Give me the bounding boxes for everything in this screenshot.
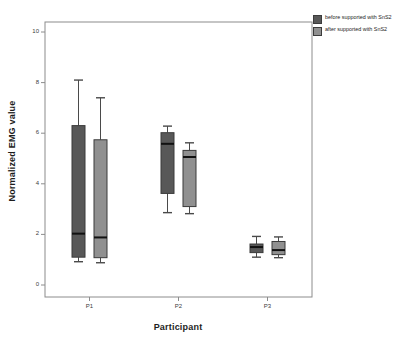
boxplot-figure: Normalized EMG value Participant before … xyxy=(0,0,412,342)
legend-label-after: after supported with SnS2 xyxy=(325,26,387,32)
box-p1-before[interactable] xyxy=(72,80,85,262)
y-tick-label: 10 xyxy=(19,28,39,34)
y-tick-label: 8 xyxy=(19,79,39,85)
x-axis-title-wrapper: Participant xyxy=(44,316,312,334)
y-tick-label: 0 xyxy=(19,281,39,287)
legend-swatch-before xyxy=(313,15,322,24)
chart-legend: before supported with SnS2 after support… xyxy=(313,14,409,38)
x-tick-label-p3: P3 xyxy=(253,303,283,309)
boxplot-canvas xyxy=(0,0,412,342)
y-axis-title: Normalized EMG value xyxy=(7,100,17,201)
legend-label-before: before supported with SnS2 xyxy=(325,14,392,20)
x-axis-title: Participant xyxy=(154,322,203,332)
legend-swatch-after xyxy=(313,27,322,36)
y-axis-title-wrapper: Normalized EMG value xyxy=(2,0,22,342)
legend-item-before[interactable]: before supported with SnS2 xyxy=(313,14,409,24)
y-tick-label: 6 xyxy=(19,129,39,135)
box-p1-after[interactable] xyxy=(94,98,107,263)
box-p2-after[interactable] xyxy=(183,143,196,214)
legend-item-after[interactable]: after supported with SnS2 xyxy=(313,26,409,36)
y-tick-label: 4 xyxy=(19,180,39,186)
box-p3-before[interactable] xyxy=(250,236,263,257)
x-tick-label-p2: P2 xyxy=(164,303,194,309)
x-tick-label-p1: P1 xyxy=(75,303,105,309)
box-p3-after[interactable] xyxy=(272,237,285,258)
y-tick-label: 2 xyxy=(19,230,39,236)
box-p2-before[interactable] xyxy=(161,126,174,213)
